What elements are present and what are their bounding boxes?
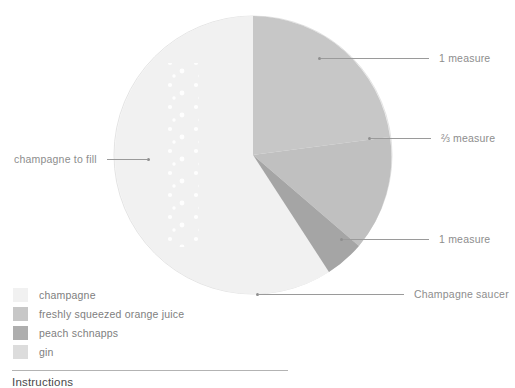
callout-leader-line [321, 58, 429, 59]
legend-swatch-peach-schnapps [13, 326, 28, 340]
legend-item-orange-juice: freshly squeezed orange juice [13, 304, 184, 323]
instructions-divider [12, 370, 288, 371]
legend-swatch-gin [13, 345, 28, 359]
legend-label-champagne: champagne [39, 289, 96, 301]
callout-leader-line [107, 159, 147, 160]
callout-gin-label: ⅔ measure [441, 132, 495, 144]
callout-dot [147, 158, 150, 161]
legend-item-champagne: champagne [13, 285, 184, 304]
callout-saucer: Champagne saucer [256, 288, 509, 300]
instructions-heading: Instructions [12, 376, 515, 388]
callout-peach-schnapps: 1 measure [340, 233, 490, 245]
legend-item-peach-schnapps: peach schnapps [13, 323, 184, 342]
legend-swatch-orange-juice [13, 307, 28, 321]
legend-label-gin: gin [39, 346, 54, 358]
instructions-section: Instructions [0, 370, 515, 388]
callout-saucer-label: Champagne saucer [414, 288, 509, 300]
callout-leader-line [259, 294, 404, 295]
legend-label-orange-juice: freshly squeezed orange juice [39, 308, 184, 320]
legend: champagne freshly squeezed orange juice … [13, 285, 184, 361]
legend-label-peach-schnapps: peach schnapps [39, 327, 118, 339]
callout-orange-juice: 1 measure [318, 52, 490, 64]
callout-peach-schnapps-label: 1 measure [439, 233, 490, 245]
callout-gin: ⅔ measure [368, 132, 495, 144]
callout-champagne: champagne to fill [14, 153, 150, 165]
callout-champagne-label: champagne to fill [14, 153, 97, 165]
callout-orange-juice-label: 1 measure [439, 52, 490, 64]
callout-leader-line [371, 138, 431, 139]
legend-item-gin: gin [13, 342, 184, 361]
legend-swatch-champagne [13, 288, 28, 302]
callout-leader-line [343, 239, 429, 240]
